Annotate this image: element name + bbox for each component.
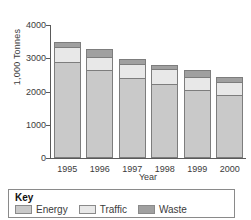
legend-label: Energy: [36, 204, 68, 215]
bar-segment-energy: [184, 90, 211, 158]
bar-segment-energy: [216, 95, 243, 159]
bar-segment-traffic: [216, 82, 243, 95]
bar-segment-traffic: [151, 69, 178, 84]
bar-segment-traffic: [54, 47, 81, 62]
bar-1999: [184, 70, 211, 158]
y-axis-tick: [46, 58, 50, 59]
bar-1997: [119, 59, 146, 158]
y-axis-tick: [46, 92, 50, 93]
legend-item-energy: Energy: [15, 204, 68, 215]
y-axis-tick-label: 1000: [16, 120, 46, 130]
stacked-bar-chart: 1,000 Tonnes 01000200030004000 199519961…: [0, 0, 251, 182]
legend-swatch-traffic: [79, 205, 96, 214]
y-axis-tick: [46, 158, 50, 159]
legend-swatch-energy: [15, 205, 32, 214]
legend-item-waste: Waste: [138, 204, 187, 215]
bar-1995: [54, 42, 81, 158]
y-axis-tick-label: 3000: [16, 53, 46, 63]
bar-segment-energy: [54, 62, 81, 158]
bar-series-container: [51, 25, 246, 158]
legend-label: Traffic: [100, 204, 127, 215]
bar-1996: [86, 49, 113, 158]
y-axis-tick-label: 0: [16, 153, 46, 163]
legend-title: Key: [15, 192, 234, 203]
x-axis-line: [50, 158, 246, 159]
legend-items: EnergyTrafficWaste: [15, 204, 234, 215]
legend-label: Waste: [159, 204, 187, 215]
bar-1998: [151, 65, 178, 158]
bar-segment-energy: [119, 78, 146, 158]
bar-segment-waste: [184, 70, 211, 77]
y-axis-tick-labels: 01000200030004000: [16, 19, 46, 159]
bar-segment-traffic: [184, 77, 211, 90]
x-axis-title: Year: [50, 172, 246, 182]
y-axis-tick: [46, 25, 50, 26]
bar-segment-energy: [151, 84, 178, 158]
plot-area: [50, 25, 246, 158]
legend-item-traffic: Traffic: [79, 204, 127, 215]
bar-segment-traffic: [86, 57, 113, 70]
y-axis-tick-label: 2000: [16, 87, 46, 97]
bar-segment-waste: [86, 49, 113, 57]
legend: Key EnergyTrafficWaste: [8, 189, 235, 218]
bar-2000: [216, 77, 243, 158]
y-axis-tick-label: 4000: [16, 20, 46, 30]
bar-segment-traffic: [119, 64, 146, 78]
bar-segment-energy: [86, 70, 113, 158]
y-axis-tick: [46, 125, 50, 126]
legend-swatch-waste: [138, 205, 155, 214]
